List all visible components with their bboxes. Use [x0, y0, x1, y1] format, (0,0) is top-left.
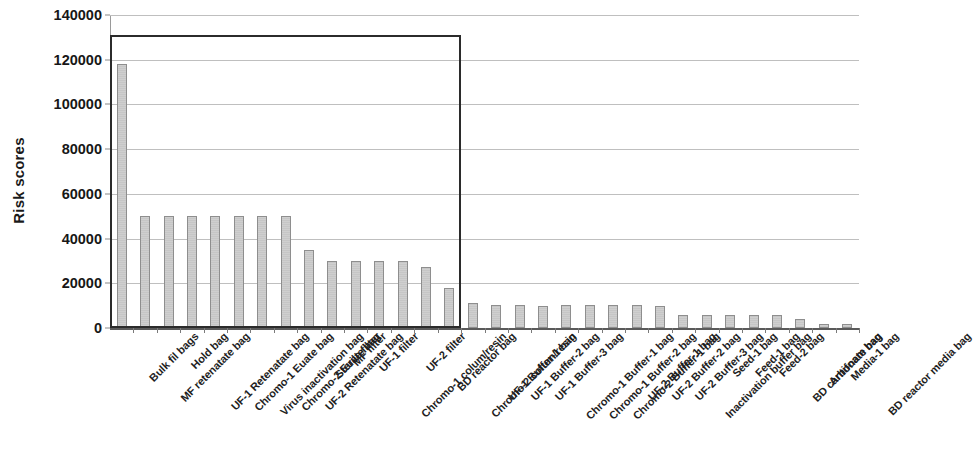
- bar: [515, 305, 525, 328]
- y-axis-tick-label: 60000: [62, 186, 102, 202]
- y-axis-tick-label: 140000: [54, 7, 102, 23]
- bar: [749, 315, 759, 328]
- bar: [538, 306, 548, 328]
- bar: [585, 305, 595, 328]
- x-axis-tick-label: Chromo-1 Buffer-1 bag: [583, 330, 675, 422]
- bar: [257, 216, 267, 328]
- x-tick-mark: [859, 328, 860, 333]
- bar: [772, 315, 782, 328]
- bar: [140, 216, 150, 328]
- bar: [725, 315, 735, 328]
- bar: [819, 324, 829, 328]
- bar: [678, 315, 688, 328]
- bars-group: [110, 15, 859, 328]
- x-axis-tick-label: BD reactor media bag: [886, 330, 973, 417]
- bar: [444, 288, 454, 328]
- y-axis-tick-label: 0: [94, 320, 102, 336]
- bar: [468, 303, 478, 328]
- bar: [421, 267, 431, 328]
- y-axis-tick-label: 100000: [54, 96, 102, 112]
- y-axis-tick-label: 80000: [62, 141, 102, 157]
- bar: [374, 261, 384, 328]
- bar: [281, 216, 291, 328]
- bar: [304, 250, 314, 328]
- bar: [608, 305, 618, 328]
- bar: [842, 324, 852, 328]
- bar: [491, 305, 501, 328]
- bar: [187, 216, 197, 328]
- bar: [351, 261, 361, 328]
- y-axis-tick-label: 40000: [62, 231, 102, 247]
- bar: [234, 216, 244, 328]
- y-axis-tick-label: 20000: [62, 275, 102, 291]
- bar: [702, 315, 712, 328]
- bar: [561, 305, 571, 328]
- bar: [327, 261, 337, 328]
- x-axis-tick-label: Bulk fil bags: [146, 330, 200, 384]
- bar: [398, 261, 408, 328]
- y-axis-tick-label: 120000: [54, 52, 102, 68]
- bar: [164, 216, 174, 328]
- bar: [795, 319, 805, 328]
- bar: [655, 306, 665, 328]
- y-axis-title: Risk scores: [10, 111, 27, 251]
- x-axis-labels-group: Bulk fil bagsMF retenatate bagHold bagUF…: [110, 330, 859, 458]
- plot-area: 020000400006000080000100000120000140000: [110, 15, 859, 328]
- bar: [632, 305, 642, 328]
- bar: [117, 64, 127, 328]
- bar: [210, 216, 220, 328]
